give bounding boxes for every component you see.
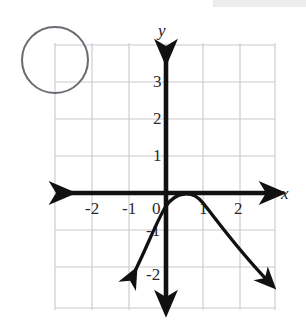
x-tick-label--1: -1: [122, 199, 136, 218]
y-tick-label-2: 2: [153, 109, 162, 128]
x-tick-label-2: 2: [234, 199, 243, 218]
x-tick-label--2: -2: [85, 199, 99, 218]
y-tick-label--2: -2: [146, 265, 160, 284]
figure-canvas: x y -2 -1 0 1 2 3 2 1 -1 -2: [0, 0, 306, 333]
y-tick-label-1: 1: [153, 146, 162, 165]
x-axis-label: x: [280, 184, 289, 203]
y-tick-label-3: 3: [153, 72, 162, 91]
coordinate-plane-figure: x y -2 -1 0 1 2 3 2 1 -1 -2: [0, 0, 306, 333]
y-axis-label: y: [156, 21, 166, 40]
